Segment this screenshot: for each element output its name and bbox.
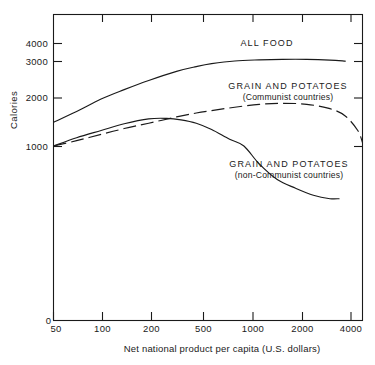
x-tick-label-4000: 4000: [340, 323, 362, 334]
chart-figure: 4000 3000 2000 1000 0 Calories 50 100 20…: [0, 0, 375, 365]
x-tick-label-500: 500: [195, 323, 212, 334]
y-tick-label-3000: 3000: [26, 56, 48, 67]
x-axis-ticks-top: [103, 15, 352, 23]
x-tick-label-50: 50: [50, 323, 61, 334]
annotation-grain-non-communist-sub: (non-Communist countries): [235, 170, 344, 180]
x-axis-title: Net national product per capita (U.S. do…: [124, 343, 321, 354]
y-tick-label-2000: 2000: [26, 92, 48, 103]
y-axis-title: Calories: [8, 91, 19, 129]
y-tick-label-4000: 4000: [26, 38, 48, 49]
annotation-grain-non-communist: GRAIN AND POTATOES: [229, 159, 348, 169]
x-tick-label-100: 100: [94, 323, 111, 334]
annotation-all-food: ALL FOOD: [241, 38, 294, 48]
annotation-grain-communist: GRAIN AND POTATOES: [228, 81, 347, 91]
y-axis-ticks-left: [54, 44, 63, 147]
x-axis-ticks-bottom: [54, 312, 352, 321]
annotation-grain-communist-sub: (Communist countries): [243, 92, 334, 102]
x-tick-label-2000: 2000: [291, 323, 313, 334]
series-line-grain-potatoes-communist: [54, 103, 363, 146]
x-tick-label-200: 200: [143, 323, 160, 334]
y-tick-label-1000: 1000: [26, 141, 48, 152]
calories-vs-nnp-line-chart: 4000 3000 2000 1000 0 Calories 50 100 20…: [0, 0, 375, 365]
x-tick-label-1000: 1000: [242, 323, 264, 334]
